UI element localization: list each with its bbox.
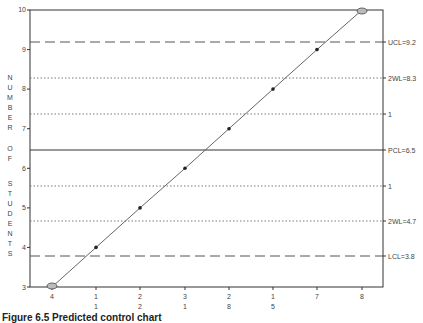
svg-text:S: S: [8, 250, 13, 257]
svg-text:2: 2: [227, 293, 231, 300]
reference-line-labels: UCL=9.2 2WL=8.3 1 PCL=6.5 1 2WL=4.7 LCL=…: [383, 39, 416, 260]
svg-text:E: E: [8, 114, 13, 121]
svg-text:1: 1: [271, 293, 275, 300]
svg-text:N: N: [7, 230, 12, 237]
svg-text:M: M: [7, 94, 13, 101]
circled-end-point: [357, 8, 367, 14]
svg-text:6: 6: [22, 165, 26, 172]
svg-text:7: 7: [22, 125, 26, 132]
svg-text:F: F: [8, 155, 12, 162]
figure-caption: Figure 6.5 Predicted control chart: [2, 312, 161, 323]
svg-text:D: D: [7, 210, 12, 217]
y-axis-tick-labels: 10 9 8 7 6 5 4 3: [18, 6, 26, 291]
svg-text:1: 1: [94, 293, 98, 300]
data-series-line: [52, 10, 362, 287]
svg-text:8: 8: [360, 293, 364, 300]
svg-text:2: 2: [138, 293, 142, 300]
svg-text:PCL=6.5: PCL=6.5: [388, 147, 416, 154]
data-point: [138, 206, 142, 210]
svg-text:5: 5: [22, 204, 26, 211]
svg-text:O: O: [7, 145, 13, 152]
svg-text:N: N: [7, 74, 12, 81]
x-axis-tick-labels: 4 1 2 3 2 1 7 8 1 2 1 8 5: [50, 293, 364, 310]
data-point: [183, 167, 187, 171]
svg-text:S: S: [8, 180, 13, 187]
svg-text:1: 1: [183, 303, 187, 310]
svg-text:9: 9: [22, 46, 26, 53]
svg-text:1: 1: [388, 111, 392, 118]
svg-text:4: 4: [50, 293, 54, 300]
svg-text:UCL=9.2: UCL=9.2: [388, 39, 416, 46]
svg-text:2WL=4.7: 2WL=4.7: [388, 218, 416, 225]
svg-text:B: B: [8, 104, 13, 111]
svg-text:8: 8: [22, 85, 26, 92]
svg-text:10: 10: [18, 6, 26, 13]
svg-text:7: 7: [315, 293, 319, 300]
svg-text:5: 5: [271, 303, 275, 310]
data-point: [271, 87, 275, 91]
svg-text:4: 4: [22, 244, 26, 251]
svg-text:E: E: [8, 220, 13, 227]
svg-text:3: 3: [22, 284, 26, 291]
svg-text:1: 1: [94, 303, 98, 310]
svg-text:3: 3: [183, 293, 187, 300]
svg-text:LCL=3.8: LCL=3.8: [388, 253, 415, 260]
svg-text:U: U: [7, 84, 12, 91]
svg-text:8: 8: [227, 303, 231, 310]
svg-text:R: R: [7, 124, 12, 131]
data-point: [315, 48, 319, 52]
svg-text:T: T: [8, 240, 13, 247]
data-point: [94, 246, 98, 250]
svg-text:2: 2: [138, 303, 142, 310]
svg-text:2WL=8.3: 2WL=8.3: [388, 75, 416, 82]
svg-text:T: T: [8, 190, 13, 197]
circled-start-point: [47, 283, 57, 289]
svg-text:U: U: [7, 200, 12, 207]
svg-text:1: 1: [388, 183, 392, 190]
y-axis-title: N U M B E R O F S T U D E N T S: [7, 74, 13, 257]
data-point: [227, 127, 231, 131]
